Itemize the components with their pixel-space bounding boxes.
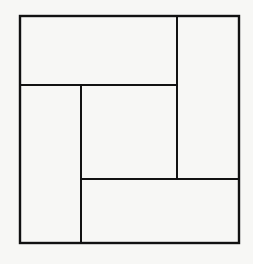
top-rectangle: [20, 16, 177, 85]
pinwheel-square-diagram: [0, 0, 253, 264]
left-rectangle: [20, 85, 81, 243]
outer-square: [20, 16, 239, 243]
pieces-group: [20, 16, 239, 243]
right-rectangle: [177, 16, 239, 179]
center-square: [81, 85, 177, 179]
bottom-rectangle: [81, 179, 239, 243]
